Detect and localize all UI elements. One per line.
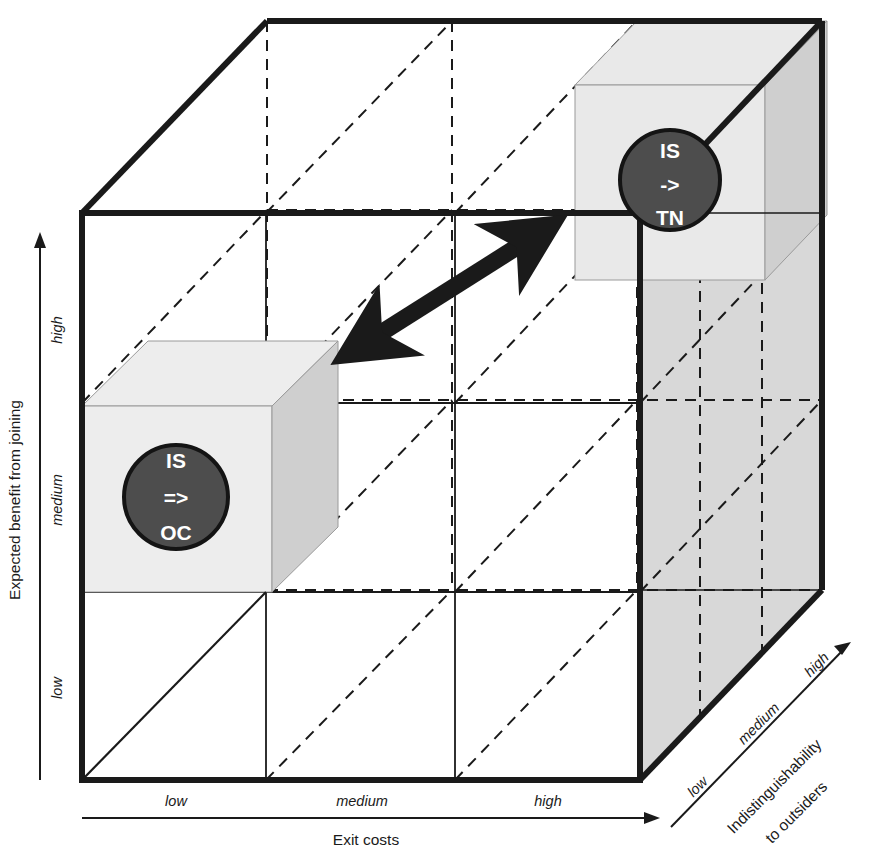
y-axis: high medium low Expected benefit from jo…	[6, 232, 65, 780]
node-is-tn-line1: IS	[660, 139, 680, 162]
x-tick-low: low	[165, 793, 188, 809]
front-diagonal	[82, 592, 266, 780]
z-tick-low: low	[684, 772, 712, 800]
x-axis-arrowhead	[644, 812, 660, 824]
x-tick-medium: medium	[336, 793, 388, 809]
node-is-oc[interactable]: IS => OC	[124, 445, 228, 549]
node-is-oc-line1: IS	[166, 449, 186, 472]
node-is-oc-line2: =>	[164, 486, 189, 509]
x-axis-label: Exit costs	[333, 831, 400, 848]
diagram-canvas: IS => OC IS -> TN high medium low Expect…	[0, 0, 870, 859]
x-tick-high: high	[534, 793, 561, 809]
node-is-oc-line3: OC	[160, 521, 192, 544]
z-tick-medium: medium	[735, 700, 783, 748]
z-tick-high: high	[801, 649, 832, 680]
cube-typology-svg: IS => OC IS -> TN high medium low Expect…	[0, 0, 870, 859]
y-tick-high: high	[49, 316, 65, 343]
node-is-tn[interactable]: IS -> TN	[620, 130, 720, 230]
x-axis: low medium high Exit costs	[82, 793, 660, 848]
y-axis-label: Expected benefit from joining	[6, 400, 23, 600]
node-is-tn-line2: ->	[660, 173, 679, 196]
bidirectional-arrow	[362, 240, 528, 345]
y-axis-arrowhead	[34, 232, 46, 248]
y-tick-medium: medium	[49, 474, 65, 526]
y-tick-low: low	[49, 676, 65, 699]
node-is-tn-line3: TN	[656, 206, 684, 229]
z-axis-arrowhead	[834, 642, 851, 655]
